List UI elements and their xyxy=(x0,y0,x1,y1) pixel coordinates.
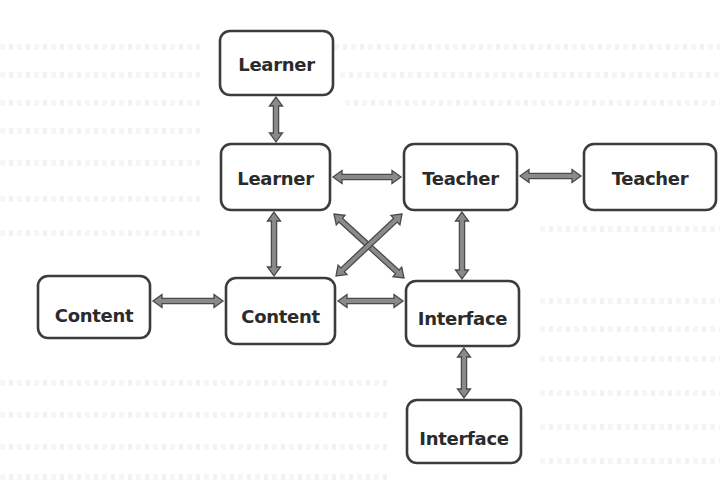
node-label: Content xyxy=(241,306,320,327)
nodes-layer: Learner Learner Teacher Teacher Content … xyxy=(38,31,716,463)
edge-arrow-learner-center-to-teacher-center xyxy=(333,171,401,184)
node-teacher-center: Teacher xyxy=(404,144,517,210)
node-interface-bottom: Interface xyxy=(407,400,521,463)
node-label: Teacher xyxy=(612,168,689,189)
node-learner-top: Learner xyxy=(220,31,333,95)
edge-arrow-content-left-to-content-center xyxy=(153,295,223,308)
interaction-diagram: Learner Learner Teacher Teacher Content … xyxy=(0,0,723,491)
node-label: Interface xyxy=(419,428,508,449)
node-learner-center: Learner xyxy=(221,144,330,210)
edge-arrow-learner-top-to-learner-center xyxy=(270,97,283,142)
node-label: Teacher xyxy=(422,168,499,189)
edges-layer xyxy=(153,97,581,398)
node-label: Learner xyxy=(237,168,314,189)
edge-arrow-learner-center-to-content-center xyxy=(268,212,281,276)
node-content-left: Content xyxy=(38,276,150,338)
edge-arrow-teacher-center-to-interface-center xyxy=(456,212,469,279)
node-label: Interface xyxy=(418,308,507,329)
edge-arrow-content-center-to-interface-center xyxy=(338,295,403,308)
node-interface-center: Interface xyxy=(406,281,519,346)
node-teacher-right: Teacher xyxy=(584,144,716,210)
edge-arrow-teacher-center-to-teacher-right xyxy=(520,170,581,183)
node-label: Content xyxy=(55,305,134,326)
node-content-center: Content xyxy=(226,278,335,344)
node-label: Learner xyxy=(238,54,315,75)
edge-arrow-interface-center-to-interface-bottom xyxy=(458,348,471,398)
